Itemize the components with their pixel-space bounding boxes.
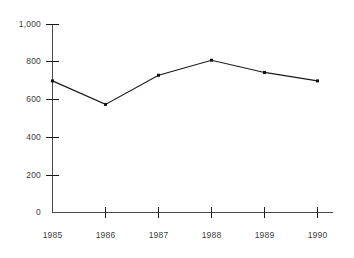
data-point-1989 (263, 71, 266, 74)
y-tick-label-200: 200 (26, 170, 41, 180)
x-tick-label-1987: 1987 (149, 230, 169, 240)
data-point-1985 (51, 79, 54, 82)
chart-canvas: 1,000 800 600 400 200 0 1985 1986 1987 1… (0, 0, 354, 258)
data-series-group (51, 59, 319, 106)
y-tick-label-400: 400 (26, 132, 41, 142)
line-chart: 1,000 800 600 400 200 0 1985 1986 1987 1… (0, 0, 354, 258)
data-point-1987 (157, 74, 160, 77)
data-point-1990 (316, 79, 319, 82)
data-point-1986 (104, 103, 107, 106)
x-tick-label-1985: 1985 (43, 230, 63, 240)
x-tick-label-1989: 1989 (255, 230, 275, 240)
y-tick-label-600: 600 (26, 94, 41, 104)
data-point-1988 (210, 59, 213, 62)
x-tick-label-1990: 1990 (308, 230, 328, 240)
series-line-path (53, 60, 318, 104)
y-tick-label-0: 0 (36, 207, 41, 217)
x-tick-labels: 1985 1986 1987 1988 1989 1990 (43, 230, 328, 240)
axes-group (52, 24, 333, 213)
y-tick-label-1000: 1,000 (19, 19, 41, 29)
x-tick-label-1988: 1988 (202, 230, 222, 240)
x-tick-label-1986: 1986 (96, 230, 116, 240)
y-tick-labels: 1,000 800 600 400 200 0 (19, 19, 41, 217)
y-tick-label-800: 800 (26, 56, 41, 66)
series-markers (51, 59, 319, 106)
